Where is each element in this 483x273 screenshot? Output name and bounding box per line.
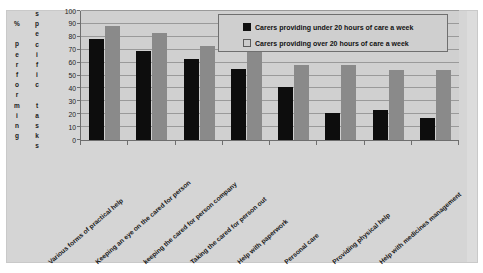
bar: [420, 118, 435, 140]
axis-title-letter: n: [15, 121, 19, 131]
bar: [89, 39, 104, 140]
bar-group: [128, 11, 175, 140]
x-axis-label: Keeping an eye on the cared for person: [94, 179, 193, 266]
bar: [389, 70, 404, 140]
bar: [278, 87, 293, 140]
bar: [325, 113, 340, 140]
y-tick-label: 50: [52, 72, 76, 79]
bar: [200, 46, 215, 140]
axis-title-letter: i: [36, 70, 38, 80]
axis-title-letter: o: [15, 80, 19, 90]
axis-title-letter: p: [35, 19, 39, 29]
axis-title-letter: s: [35, 9, 39, 19]
legend: Carers providing under 20 hours of care …: [218, 14, 448, 52]
bar: [294, 65, 309, 140]
y-tick-label: 90: [52, 20, 76, 27]
x-axis-label: Help with paperwork: [236, 218, 290, 266]
axis-title-letter: %: [14, 19, 20, 29]
axis-title-letter: [16, 29, 18, 39]
axis-title-letter: s: [35, 121, 39, 131]
legend-entry-label: Carers providing under 20 hours of care …: [255, 24, 413, 31]
bar: [231, 69, 246, 140]
light-square-icon: [243, 39, 251, 47]
axis-title-letter: m: [14, 101, 20, 111]
legend-entry-label: Carers providing over 20 hours of care a…: [255, 40, 409, 47]
axis-title-letter: f: [36, 60, 38, 70]
axis-title-letter: [36, 91, 38, 101]
legend-entry: Carers providing over 20 hours of care a…: [243, 36, 447, 50]
bar: [373, 110, 388, 140]
axis-title-letter: c: [35, 40, 39, 50]
x-axis-label: keeping the cared for person company: [141, 180, 238, 266]
x-axis-label: Help with medicines management: [378, 190, 463, 266]
axis-title-letter: p: [15, 39, 19, 49]
bar: [184, 59, 199, 140]
bar-group: [81, 11, 128, 140]
x-axis-labels: Various forms of practical helpKeeping a…: [0, 140, 483, 265]
bar: [436, 70, 451, 140]
y-tick-label: 20: [52, 111, 76, 118]
axis-title-letter: c: [35, 80, 39, 90]
bar: [341, 65, 356, 140]
axis-title-letter: a: [35, 111, 39, 121]
bar-group: [176, 11, 223, 140]
dark-square-icon: [243, 23, 251, 31]
x-axis-label: Personal care: [283, 232, 321, 266]
axis-title-letter: t: [36, 101, 38, 111]
y-tick-label: 10: [52, 124, 76, 131]
axis-title-letter: f: [16, 70, 18, 80]
y-axis-ticks: 0102030405060708090100: [52, 11, 80, 140]
y-tick-label: 80: [52, 33, 76, 40]
legend-entry: Carers providing under 20 hours of care …: [243, 20, 447, 34]
x-axis-label: Taking the cared for person out: [189, 195, 269, 266]
bar: [105, 26, 120, 140]
axis-title-letter: e: [35, 29, 39, 39]
axis-title-letter: e: [15, 50, 19, 60]
x-axis-label: Various forms of practical help: [47, 197, 125, 266]
bar: [136, 51, 151, 140]
y-tick-label: 40: [52, 85, 76, 92]
axis-title-letter: r: [16, 90, 19, 100]
screenshot-root: % performing specific tasks 010203040506…: [0, 0, 483, 273]
axis-title-letter: r: [16, 60, 19, 70]
axis-title-letter: i: [16, 111, 18, 121]
y-tick-label: 100: [52, 8, 76, 15]
y-tick-label: 60: [52, 59, 76, 66]
axis-title-letter: i: [36, 50, 38, 60]
y-tick-label: 70: [52, 46, 76, 53]
bar: [247, 51, 262, 140]
bar: [152, 33, 167, 140]
y-tick-label: 30: [52, 98, 76, 105]
